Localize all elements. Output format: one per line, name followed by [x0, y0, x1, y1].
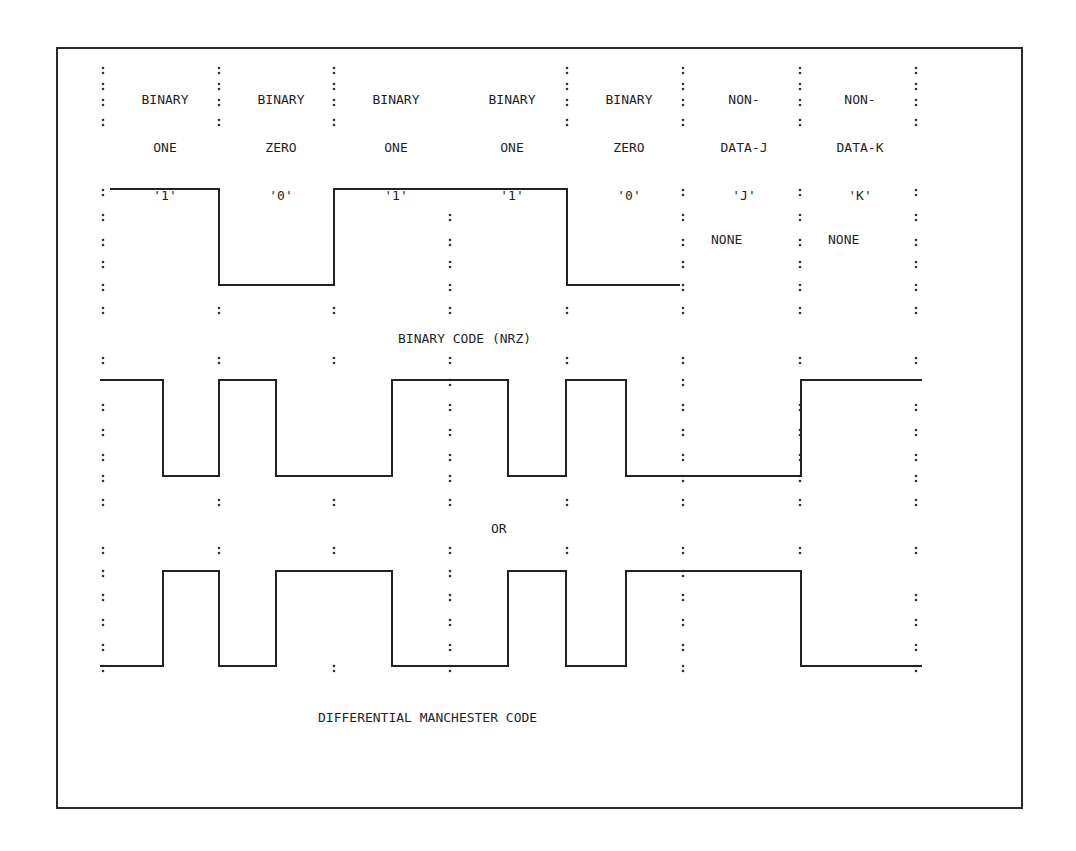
nrz-waveform	[110, 189, 680, 285]
manchester-waveform-b	[100, 571, 922, 666]
column-dividers	[102, 67, 918, 673]
or-label: OR	[491, 521, 507, 537]
nrz-label: BINARY CODE (NRZ)	[398, 331, 531, 347]
nrz-none-k: NONE	[828, 232, 859, 248]
waveform-diagram	[0, 0, 1076, 851]
manchester-label: DIFFERENTIAL MANCHESTER CODE	[318, 710, 537, 726]
nrz-none-j: NONE	[711, 232, 742, 248]
manchester-waveform-a	[100, 380, 922, 476]
